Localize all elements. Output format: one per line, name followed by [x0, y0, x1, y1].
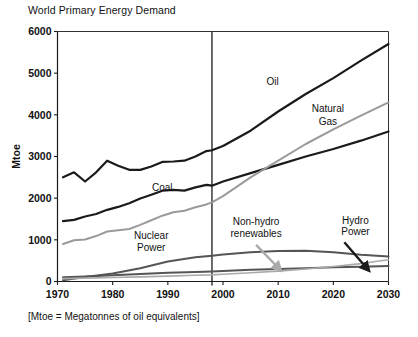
chart-footnote: [Mtoe = Megatonnes of oil equivalents] [28, 311, 200, 322]
series-annotation-hydro: Hydro [342, 215, 369, 226]
series-annotation-nuclear: Nuclear [134, 230, 169, 241]
x-tick-label: 2000 [211, 288, 235, 300]
energy-demand-figure: World Primary Energy Demand 010002000300… [0, 0, 418, 337]
y-tick-label: 0 [46, 275, 52, 287]
series-annotation-non-hydro: Non-hydro [233, 216, 280, 227]
series-annotation-gas: Gas [319, 116, 337, 127]
series-annotation-oil: Oil [267, 76, 279, 87]
series-annotation-coal: Coal [152, 182, 173, 193]
x-tick-label: 2020 [322, 288, 346, 300]
series-line-natural-gas [63, 102, 388, 244]
y-axis-title: Mtoe [10, 144, 22, 169]
line-chart-canvas: 0100020003000400050006000197019801990200… [0, 0, 418, 337]
y-tick-label: 2000 [28, 192, 52, 204]
y-tick-label: 1000 [28, 234, 52, 246]
y-tick-label: 3000 [28, 150, 52, 162]
x-tick-label: 2030 [377, 288, 401, 300]
x-tick-label: 2010 [266, 288, 290, 300]
x-tick-label: 1990 [156, 288, 180, 300]
series-annotation-power: Power [137, 242, 166, 253]
series-annotation-renewables: renewables [231, 228, 282, 239]
x-tick-label: 1980 [101, 288, 125, 300]
arrows-layer [256, 242, 366, 267]
series-annotation-power: Power [341, 226, 370, 237]
y-tick-label: 4000 [28, 109, 52, 121]
series-line-hydro-power [63, 266, 388, 277]
axes-layer: 0100020003000400050006000197019801990200… [10, 25, 400, 299]
non-hydro-renewables-arrow [256, 245, 278, 268]
series-labels-layer: OilNaturalGasCoalNuclearPowerNon-hydrore… [134, 76, 370, 253]
series-annotation-natural: Natural [312, 103, 344, 114]
y-tick-label: 5000 [28, 67, 52, 79]
y-tick-label: 6000 [28, 25, 52, 37]
series-layer [63, 44, 388, 280]
x-tick-label: 1970 [46, 288, 70, 300]
